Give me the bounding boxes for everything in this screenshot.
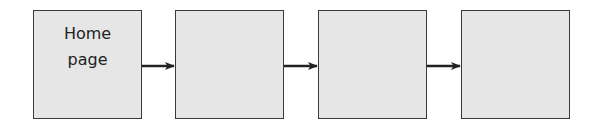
flow-arrows	[0, 0, 599, 125]
